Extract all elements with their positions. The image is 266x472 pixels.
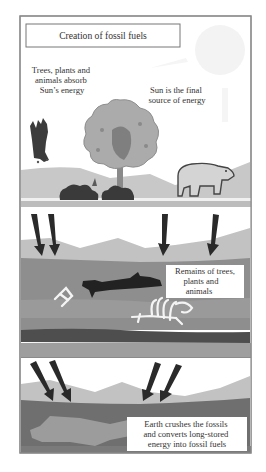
label-absorb-line: Sun’s energy xyxy=(40,85,85,95)
label-sun-source: Sun is the final source of energy xyxy=(148,85,206,105)
label-absorb-line: Trees, plants and xyxy=(32,65,91,75)
label-crush-line: and converts long-stored xyxy=(143,429,229,439)
fossil-fuel-diagram: Creation of fossil fuels Trees, plants a… xyxy=(0,0,266,472)
label-sun-line: Sun is the final xyxy=(150,85,202,95)
label-absorb-line: animals absorb xyxy=(35,75,87,85)
label-remains-line: animals xyxy=(186,286,213,296)
diagram-title: Creation of fossil fuels xyxy=(59,30,147,41)
label-crush: Earth crushes the fossils and converts l… xyxy=(143,419,230,449)
label-sun-line: source of energy xyxy=(148,95,206,105)
label-remains-line: plants and xyxy=(183,276,219,286)
label-absorb: Trees, plants and animals absorb Sun’s e… xyxy=(32,65,92,95)
label-remains-line: Remains of trees, xyxy=(175,266,235,276)
label-crush-line: energy into fossil fuels xyxy=(148,439,227,449)
ground-band xyxy=(21,201,251,207)
panel-compression: Earth crushes the fossils and converts l… xyxy=(21,358,251,454)
ground-line-white xyxy=(21,198,251,201)
panel-burial: Remains of trees, plants and animals xyxy=(21,207,251,357)
label-crush-line: Earth crushes the fossils xyxy=(144,419,228,429)
